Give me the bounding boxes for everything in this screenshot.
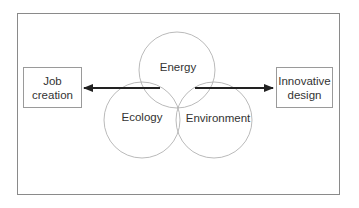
diagram-canvas: Job creation Innovative design Energy Ec…: [0, 0, 359, 208]
energy-label: Energy: [160, 61, 196, 73]
innovative-design-line1: Innovative: [278, 74, 330, 88]
environment-label: Environment: [186, 112, 251, 124]
job-creation-line2: creation: [32, 88, 73, 102]
innovative-design-line2: design: [288, 88, 322, 102]
job-creation-line1: Job: [43, 74, 62, 88]
ecology-label: Ecology: [122, 111, 163, 123]
job-creation-box: Job creation: [23, 67, 82, 108]
innovative-design-box: Innovative design: [276, 67, 333, 108]
